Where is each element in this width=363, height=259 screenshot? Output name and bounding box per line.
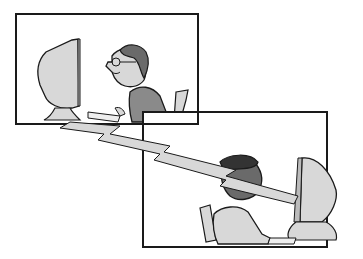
illustration (0, 0, 363, 259)
top-left-panel (16, 14, 198, 124)
